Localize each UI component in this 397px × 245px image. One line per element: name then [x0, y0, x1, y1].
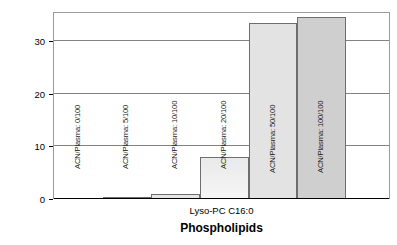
bar-category-label: ACN/Plasma: 10/100	[171, 101, 179, 169]
y-tick-label: 0	[19, 195, 45, 204]
category-label: Lyso-PC C16:0	[53, 205, 390, 216]
y-tick-mark	[49, 199, 53, 200]
y-tick-label: 30	[19, 37, 45, 46]
x-axis-title: Phospholipids	[53, 221, 390, 235]
y-tick-label: 10	[19, 142, 45, 151]
y-tick-label: 20	[19, 90, 45, 99]
bar-category-label: ACN/Plasma: 5/100	[122, 105, 130, 169]
plot-inner: ACN/Plasma: 0/100ACN/Plasma: 5/100ACN/Pl…	[54, 13, 389, 199]
plot-area: ACN/Plasma: 0/100ACN/Plasma: 5/100ACN/Pl…	[53, 12, 390, 199]
bar-category-label: ACN/Plasma: 0/100	[74, 105, 82, 169]
bar-category-label: ACN/Plasma: 20/100	[220, 101, 228, 169]
bar-chart-figure: Increase of response 0102030 ACN/Plasma:…	[0, 0, 397, 245]
bar-category-label: ACN/Plasma: 50/100	[269, 105, 277, 173]
x-axis-baseline	[54, 198, 389, 199]
bar-category-label: ACN/Plasma: 100/100	[317, 101, 325, 173]
